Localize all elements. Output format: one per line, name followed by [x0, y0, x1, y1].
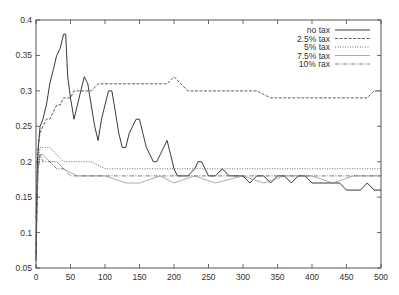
x-tick-label: 150 [132, 272, 146, 282]
x-tick-label: 450 [339, 272, 353, 282]
legend: no tax2.5% tax5% tax7.5% tax10% rax [297, 25, 370, 69]
x-tick-label: 0 [34, 272, 39, 282]
legend-label: 10% rax [299, 59, 331, 69]
y-tick-label: 0.05 [15, 263, 32, 273]
series-line-7-5-tax [36, 155, 381, 247]
x-tick-label: 400 [305, 272, 319, 282]
y-tick-label: 0.25 [15, 121, 32, 131]
y-tick-label: 0.35 [15, 50, 32, 60]
x-tick-label: 500 [374, 272, 388, 282]
series-line-5-tax [36, 148, 381, 233]
x-tick-label: 350 [270, 272, 284, 282]
series-line-2-5-tax [36, 77, 381, 219]
x-tick-label: 200 [167, 272, 181, 282]
y-tick-label: 0.2 [20, 157, 32, 167]
y-tick-label: 0.3 [20, 86, 32, 96]
x-tick-label: 100 [98, 272, 112, 282]
series-line-10-rax [36, 155, 381, 254]
y-tick-label: 0.1 [20, 228, 32, 238]
x-tick-label: 250 [201, 272, 215, 282]
x-tick-label: 300 [236, 272, 250, 282]
y-tick-label: 0.4 [20, 15, 32, 25]
y-tick-label: 0.15 [15, 192, 32, 202]
x-tick-label: 50 [66, 272, 76, 282]
line-chart: 050100150200250300350400450500 0.050.10.… [0, 0, 399, 295]
x-axis: 050100150200250300350400450500 [34, 20, 389, 282]
